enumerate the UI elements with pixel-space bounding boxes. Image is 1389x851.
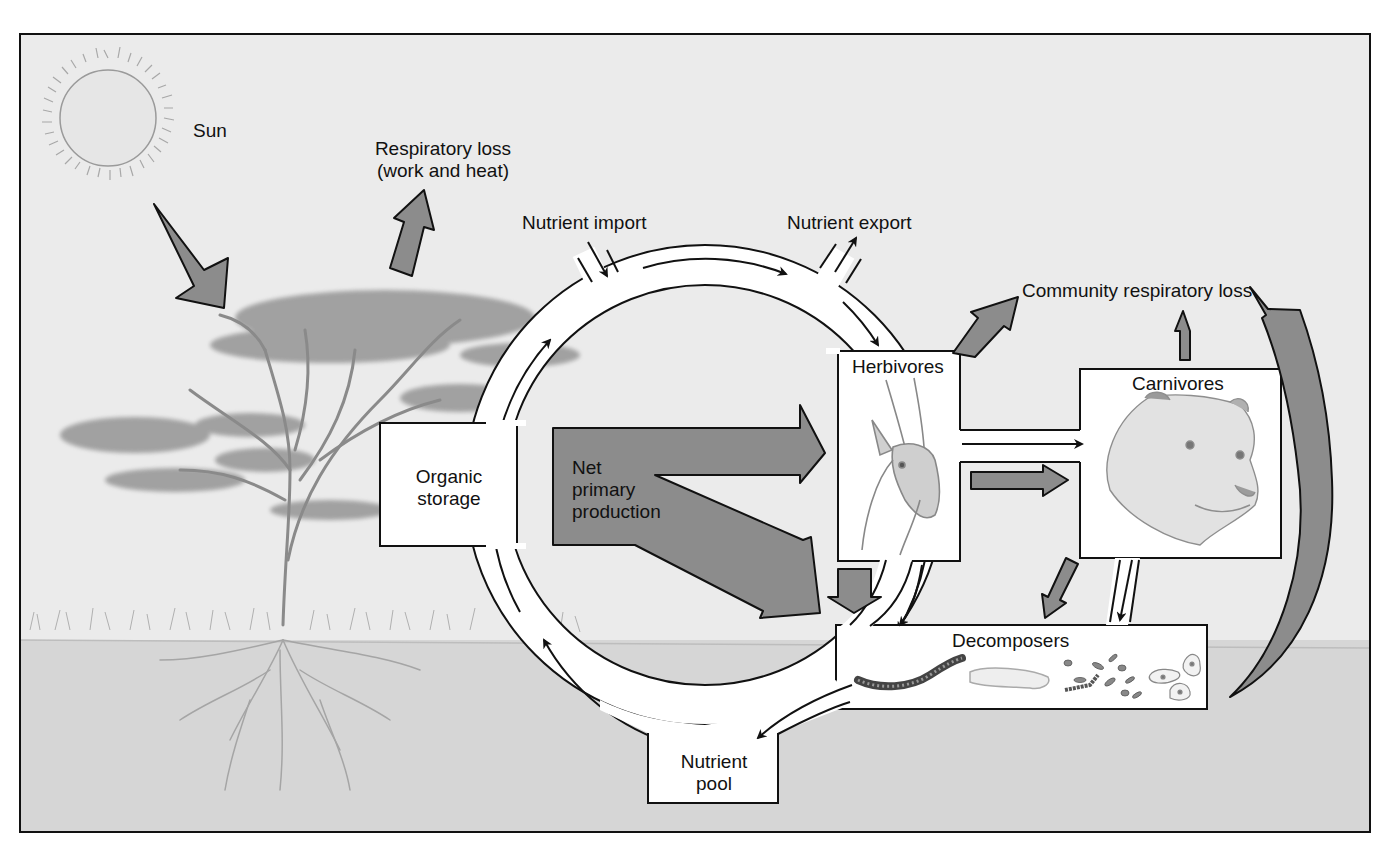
carnivores-label: Carnivores: [1132, 373, 1224, 395]
sun-label: Sun: [193, 120, 227, 142]
carnivores-box: [1080, 369, 1281, 558]
nutrient-import-label: Nutrient import: [522, 212, 647, 234]
community-respiratory-loss-label: Community respiratory loss: [1022, 280, 1252, 302]
decomposers-label: Decomposers: [952, 630, 1069, 652]
herbivore-carnivore-channel: [958, 430, 1082, 462]
organic-storage-label: Organic storage: [382, 466, 516, 510]
respiratory-loss-label: Respiratory loss (work and heat): [366, 138, 520, 182]
herbivores-box: [838, 351, 960, 561]
nutrient-pool-label: Nutrient pool: [650, 751, 778, 795]
herbivores-label: Herbivores: [852, 356, 944, 378]
nutrient-export-label: Nutrient export: [787, 212, 912, 234]
net-primary-production-label: Net primary production: [572, 457, 661, 523]
